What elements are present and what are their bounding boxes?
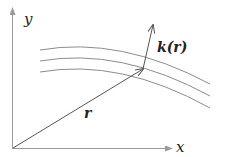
x-axis-label: x <box>176 138 185 156</box>
vector-k-label: k(r) <box>157 39 187 55</box>
vector-k <box>143 25 153 69</box>
curve-3 <box>40 69 210 108</box>
y-axis-label: y <box>23 10 33 28</box>
vector-r-label: r <box>84 105 93 121</box>
curve-2 <box>40 58 210 96</box>
diagram-canvas: y x r k(r) <box>0 0 226 157</box>
vector-r <box>13 69 143 148</box>
